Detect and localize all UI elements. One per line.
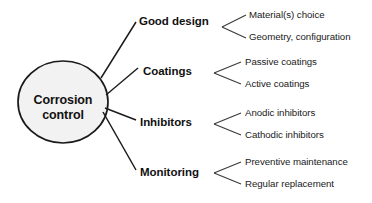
fork-good-design-upper bbox=[222, 15, 246, 27]
leaf-label-regular-replacement: Regular replacement bbox=[245, 178, 334, 190]
fork-coatings-upper bbox=[214, 62, 241, 73]
branch-label-good-design: Good design bbox=[139, 15, 209, 28]
connector-root-to-inhibitors bbox=[105, 108, 136, 120]
leaf-label-geometry-configuration: Geometry, configuration bbox=[249, 31, 351, 43]
leaf-label-passive-coatings: Passive coatings bbox=[245, 56, 317, 68]
leaf-label-active-coatings: Active coatings bbox=[245, 78, 309, 90]
fork-good-design-lower bbox=[222, 27, 246, 38]
corrosion-control-diagram: Corrosion control Good design Coatings I… bbox=[0, 0, 372, 203]
root-node-label-line2: control bbox=[17, 108, 109, 123]
root-node-label: Corrosion control bbox=[17, 93, 109, 123]
fork-monitoring-lower bbox=[214, 173, 241, 184]
connector-root-to-good-design bbox=[101, 22, 136, 78]
connector-root-to-coatings bbox=[106, 68, 138, 95]
leaf-label-preventive-maintenance: Preventive maintenance bbox=[245, 156, 348, 168]
leaf-label-anodic-inhibitors: Anodic inhibitors bbox=[245, 107, 315, 119]
fork-inhibitors-lower bbox=[214, 124, 241, 135]
branch-label-monitoring: Monitoring bbox=[140, 166, 199, 179]
branch-label-inhibitors: Inhibitors bbox=[140, 116, 192, 129]
root-node-label-line1: Corrosion bbox=[17, 93, 109, 108]
fork-monitoring-upper bbox=[214, 162, 241, 173]
leaf-label-cathodic-inhibitors: Cathodic inhibitors bbox=[245, 129, 324, 141]
branch-label-coatings: Coatings bbox=[143, 65, 192, 78]
fork-coatings-lower bbox=[214, 73, 241, 84]
leaf-label-material-choice: Material(s) choice bbox=[249, 9, 325, 21]
fork-inhibitors-upper bbox=[214, 113, 241, 124]
